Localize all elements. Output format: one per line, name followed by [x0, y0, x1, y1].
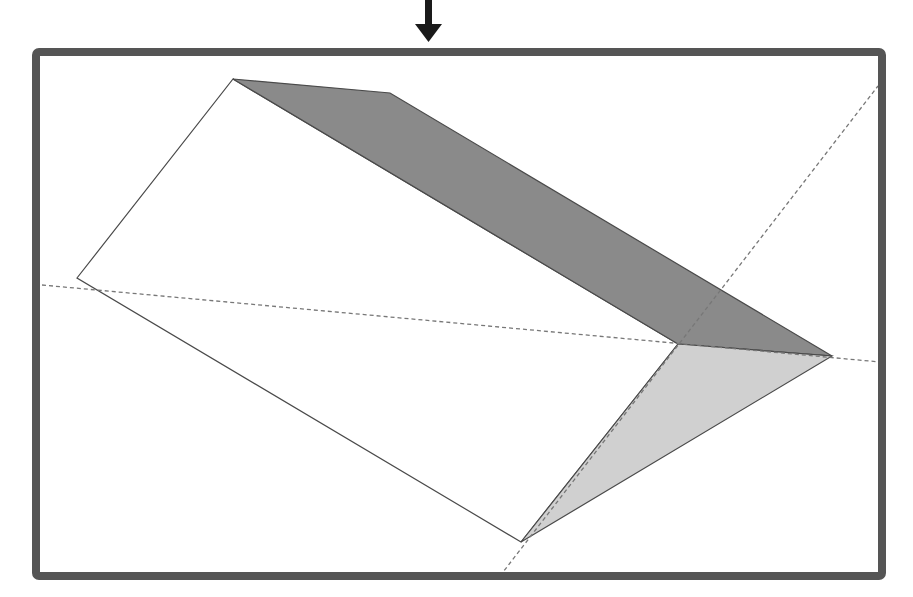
diagram-canvas: 3D prism cut diagram with dashed cutting…	[0, 0, 913, 597]
down-arrow-icon	[415, 0, 442, 42]
diagram-svg	[0, 0, 913, 597]
